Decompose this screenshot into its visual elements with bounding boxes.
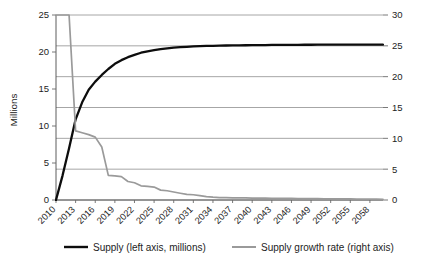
x-axis-tick-label: 2043 [252,204,274,226]
x-axis-tick-label: 2040 [232,204,254,226]
right-axis-tick-label: 20 [392,71,403,82]
x-axis-tick-label: 2010 [36,204,58,226]
x-axis-tick-label: 2052 [311,204,333,226]
left-axis-tick-label: 10 [38,120,49,131]
x-axis-tick-label: 2013 [56,204,78,226]
x-axis-tick-label: 2058 [350,204,372,226]
series-line-supply [56,45,383,200]
left-axis-tick-label: 20 [38,46,49,57]
left-axis-tick-label: 25 [38,9,49,20]
right-axis-tick-label: 15 [392,102,403,113]
x-axis-tick-label: 2031 [173,204,195,226]
gridlines-group [56,15,383,200]
x-axis-tick-label: 2049 [291,204,313,226]
right-axis-tick-label: 25 [392,40,403,51]
x-axis-tick-label: 2046 [271,204,293,226]
x-axis-tick-label: 2025 [134,204,156,226]
x-axis-tick-label: 2028 [154,204,176,226]
left-axis-tick-label: 5 [44,157,49,168]
right-axis-tick-label: 5 [392,164,397,175]
x-axis-tick-label: 2037 [212,204,234,226]
right-axis-tick-label: 10 [392,133,403,144]
chart-container: 0510152025 051015202530 2010201320162019… [0,0,430,264]
legend-label-growth-rate: Supply growth rate (right axis) [261,242,394,253]
legend-label-supply: Supply (left axis, millions) [93,242,206,253]
x-axis-tick-label: 2034 [193,204,215,226]
x-axis: 2010201320162019202220252028203120342037… [36,200,383,226]
x-axis-tick-label: 2055 [330,204,352,226]
left-axis-tick-label: 0 [44,194,49,205]
right-axis-tick-label: 0 [392,194,397,205]
x-axis-tick-label: 2022 [114,204,136,226]
legend: Supply (left axis, millions)Supply growt… [64,242,394,253]
y-axis-right: 051015202530 [383,9,403,205]
right-axis-tick-label: 30 [392,9,403,20]
x-axis-tick-label: 2016 [75,204,97,226]
y-axis-title: Millions [8,94,19,127]
y-axis-left: 0510152025 [38,9,56,205]
x-axis-tick-label: 2019 [95,204,117,226]
left-axis-tick-label: 15 [38,83,49,94]
supply-chart: 0510152025 051015202530 2010201320162019… [0,0,430,264]
